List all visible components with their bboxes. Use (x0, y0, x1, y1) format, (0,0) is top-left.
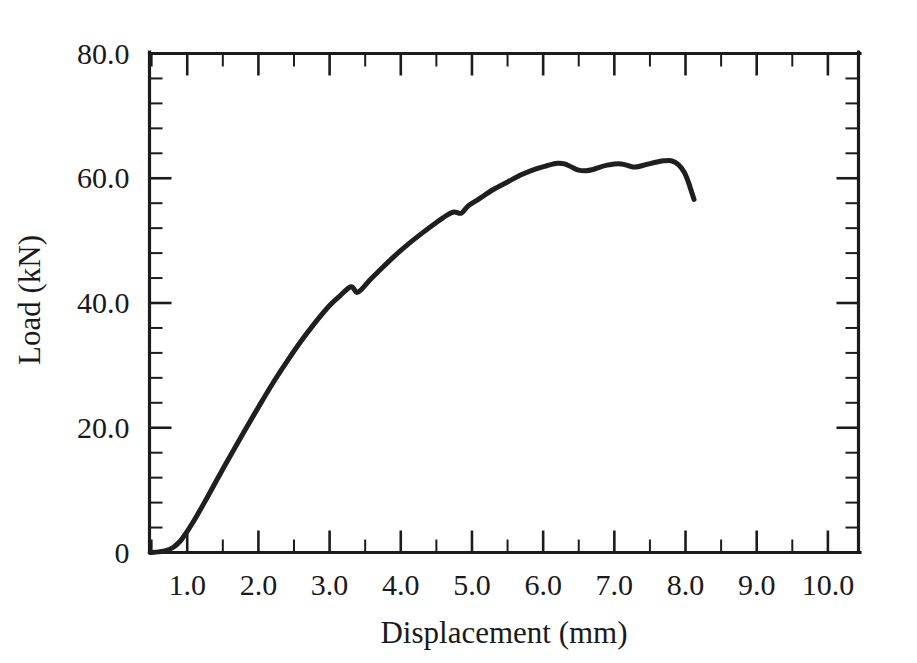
y-axis-title: Load (kN) (12, 235, 47, 365)
x-tick-label: 10.0 (802, 568, 855, 601)
axis-frame (150, 52, 861, 553)
x-tick-label: 4.0 (382, 568, 420, 601)
y-tick-label: 0 (115, 536, 130, 569)
x-axis-ticks (152, 54, 828, 553)
x-tick-label: 7.0 (596, 568, 634, 601)
chart-figure: 020.040.060.080.0 1.02.03.04.05.06.07.08… (0, 0, 917, 663)
x-axis-title: Displacement (mm) (380, 615, 627, 650)
y-axis-ticks (150, 54, 859, 553)
x-axis-tick-labels: 1.02.03.04.05.06.07.08.09.010.0 (168, 568, 854, 601)
x-tick-label: 9.0 (738, 568, 776, 601)
x-tick-label: 3.0 (311, 568, 349, 601)
x-tick-label: 5.0 (453, 568, 491, 601)
x-tick-label: 8.0 (667, 568, 705, 601)
x-tick-label: 1.0 (168, 568, 206, 601)
data-series-line (150, 160, 694, 552)
y-tick-label: 20.0 (77, 411, 130, 444)
axis-left-bottom (150, 52, 861, 553)
y-tick-label: 80.0 (77, 37, 130, 70)
x-tick-label: 2.0 (240, 568, 278, 601)
y-tick-label: 40.0 (77, 286, 130, 319)
y-axis-tick-labels: 020.040.060.080.0 (77, 37, 130, 569)
y-tick-label: 60.0 (77, 161, 130, 194)
x-tick-label: 6.0 (524, 568, 562, 601)
load-displacement-chart: 020.040.060.080.0 1.02.03.04.05.06.07.08… (0, 0, 917, 663)
